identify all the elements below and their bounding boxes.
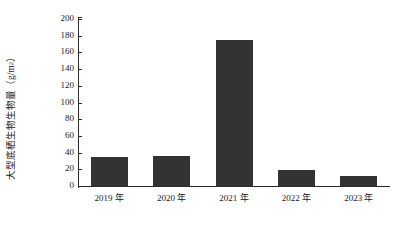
y-tick-label: 40	[65, 147, 74, 158]
bar-chart-figure: 大型底栖生物生物量（g/m2） 020406080100120140160180…	[0, 0, 401, 232]
y-tick: 20	[78, 169, 82, 170]
y-tick-mark	[78, 52, 82, 53]
y-tick-mark	[78, 86, 82, 87]
y-tick-label: 180	[61, 30, 75, 41]
y-tick-label: 160	[61, 46, 75, 57]
y-tick-label: 60	[65, 130, 74, 141]
bar	[91, 157, 128, 186]
y-tick-label: 100	[61, 97, 75, 108]
y-tick-mark	[78, 19, 82, 20]
y-tick-mark	[78, 153, 82, 154]
y-tick: 40	[78, 153, 82, 154]
x-tick-label: 2023 年	[328, 191, 390, 204]
y-tick-mark	[78, 36, 82, 37]
y-tick-label: 140	[61, 63, 75, 74]
x-tick-label: 2019 年	[78, 191, 140, 204]
y-tick-mark	[78, 136, 82, 137]
x-tick-label: 2020 年	[140, 191, 202, 204]
y-tick-label: 200	[61, 13, 75, 24]
bar	[278, 170, 315, 186]
y-axis-top-cap	[78, 17, 82, 18]
y-axis-title-text: 大型底栖生物生物量（g/m	[3, 65, 17, 180]
y-tick-mark	[78, 169, 82, 170]
y-tick: 120	[78, 86, 82, 87]
y-axis-title-superscript: 2	[7, 62, 14, 65]
y-tick-mark	[78, 103, 82, 104]
y-tick-label: 0	[70, 180, 75, 191]
y-tick: 180	[78, 36, 82, 37]
y-tick: 0	[78, 186, 82, 187]
y-tick: 200	[78, 19, 82, 20]
y-tick-mark	[78, 119, 82, 120]
y-tick: 140	[78, 69, 82, 70]
x-tick-label: 2022 年	[265, 191, 327, 204]
y-tick-label: 120	[61, 80, 75, 91]
bar	[340, 176, 377, 186]
y-tick: 100	[78, 103, 82, 104]
y-tick-label: 20	[65, 163, 74, 174]
x-axis-line	[78, 186, 390, 187]
plot-area: 020406080100120140160180200 2019 年2020 年…	[78, 19, 390, 186]
y-tick: 80	[78, 119, 82, 120]
y-axis-title-tail: ）	[3, 52, 17, 62]
x-tick-label: 2021 年	[203, 191, 265, 204]
y-tick-mark	[78, 69, 82, 70]
bar	[216, 40, 253, 186]
y-tick-label: 80	[65, 113, 74, 124]
y-tick: 160	[78, 52, 82, 53]
y-tick: 60	[78, 136, 82, 137]
bar	[153, 156, 190, 186]
y-tick-mark	[78, 186, 82, 187]
y-axis-title: 大型底栖生物生物量（g/m2）	[0, 0, 20, 232]
